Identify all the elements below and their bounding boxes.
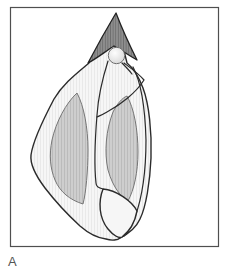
figure-panel: A: [0, 0, 227, 275]
apex-knob: [108, 47, 124, 63]
shell-illustration: A: [0, 0, 227, 275]
panel-label: A: [8, 254, 17, 269]
